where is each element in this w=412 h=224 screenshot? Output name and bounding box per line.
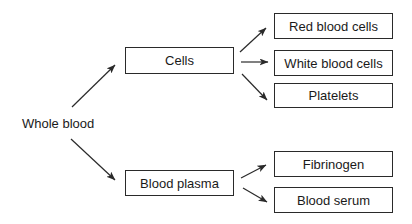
arrow-cells-to-red	[240, 28, 266, 52]
node-cells: Cells	[125, 47, 234, 74]
arrow-whole-blood-to-plasma	[71, 139, 115, 180]
arrow-plasma-to-fibrinogen	[241, 165, 266, 178]
node-label: Platelets	[309, 89, 359, 102]
blood-composition-diagram: Whole blood Cells Blood plasma Red blood…	[0, 0, 412, 224]
node-label: Fibrinogen	[303, 158, 364, 171]
node-blood-serum: Blood serum	[274, 187, 393, 213]
node-label: White blood cells	[284, 57, 382, 70]
node-label: Blood serum	[297, 194, 370, 207]
node-fibrinogen: Fibrinogen	[274, 151, 393, 177]
arrow-plasma-to-serum	[243, 188, 267, 202]
node-label: Red blood cells	[289, 20, 378, 33]
node-label: Cells	[165, 54, 194, 67]
node-blood-plasma: Blood plasma	[125, 170, 234, 196]
node-white-blood-cells: White blood cells	[274, 50, 393, 76]
arrow-whole-blood-to-cells	[72, 65, 115, 107]
arrow-cells-to-platelets	[242, 74, 267, 100]
node-platelets: Platelets	[274, 83, 393, 108]
root-node-whole-blood: Whole blood	[22, 117, 94, 130]
node-label: Blood plasma	[140, 177, 219, 190]
node-red-blood-cells: Red blood cells	[274, 13, 393, 39]
